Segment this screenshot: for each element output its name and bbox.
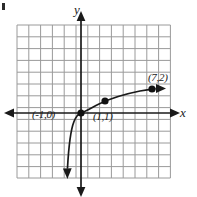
x-axis [4,109,180,118]
point-marker [101,97,108,104]
graph-figure: (-1,0) (1,1) (7,2) y x [0,0,197,197]
point-label-7-2: (7,2) [148,71,168,83]
grid-lines [17,25,170,178]
y-axis-label: y [74,2,80,18]
x-axis-label: x [180,105,186,121]
point-marker [148,85,155,92]
point-label-1-1: (1,1) [93,110,113,122]
coordinate-plane-svg [0,0,197,197]
point-marker [77,109,84,116]
point-label-neg1-0: (-1,0) [32,108,55,120]
y-axis [77,11,86,197]
curve-right-arrowhead [156,84,166,93]
